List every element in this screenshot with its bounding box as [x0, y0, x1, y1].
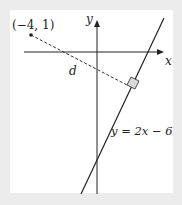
line-y-eq-2x-minus-6 — [81, 18, 164, 194]
point-neg4-1 — [29, 33, 33, 37]
distance-label: d — [69, 65, 77, 77]
x-axis-arrow-icon — [157, 49, 164, 55]
point-label: (−4, 1) — [12, 19, 54, 31]
y-axis-label: y — [86, 13, 93, 25]
right-angle-marker-icon — [127, 77, 139, 89]
y-axis-arrow-icon — [94, 20, 100, 27]
line-equation-label: y = 2x − 6 — [111, 126, 173, 138]
perpendicular-distance-segment — [31, 35, 127, 85]
x-axis-label: x — [165, 55, 172, 67]
